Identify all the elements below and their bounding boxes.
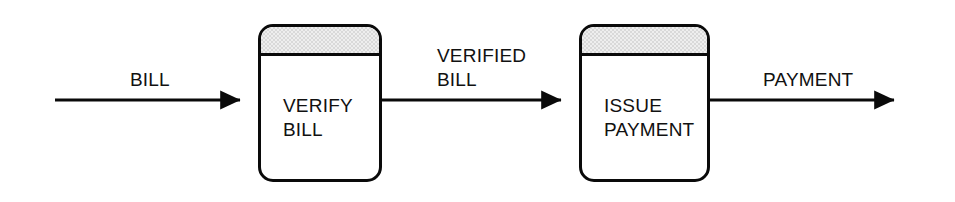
process-box-body: VERIFY BILL	[261, 56, 379, 179]
process-box-issue-payment[interactable]: ISSUE PAYMENT	[579, 24, 710, 182]
process-box-header	[582, 27, 707, 56]
flow-label-verified-bill: VERIFIED BILL	[437, 44, 526, 92]
process-box-header	[261, 27, 379, 56]
process-label-line1: VERIFY	[261, 94, 379, 118]
flow-label-line2: BILL	[437, 68, 526, 92]
flow-arrows-layer	[0, 0, 955, 202]
diagram-canvas: VERIFY BILL ISSUE PAYMENT BILL VERIFIED …	[0, 0, 955, 202]
flow-label-payment: PAYMENT	[763, 68, 853, 92]
process-box-body: ISSUE PAYMENT	[582, 56, 707, 179]
flow-label-line1: VERIFIED	[437, 45, 526, 66]
process-label-line2: BILL	[261, 118, 379, 142]
process-label-line1: ISSUE	[582, 94, 707, 118]
flow-label-bill: BILL	[130, 68, 170, 92]
flow-label-line1: PAYMENT	[763, 69, 853, 90]
flow-label-line1: BILL	[130, 69, 170, 90]
process-label-line2: PAYMENT	[582, 118, 707, 142]
process-box-verify-bill[interactable]: VERIFY BILL	[258, 24, 382, 182]
